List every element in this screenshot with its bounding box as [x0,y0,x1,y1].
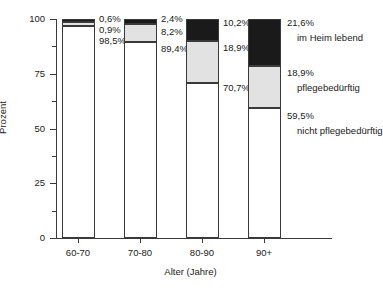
bar-70-80[interactable] [124,19,157,238]
bar-60-70-label-nicht-pflege: 98,5% [99,36,126,46]
x-axis-line [56,238,332,239]
bar-80-90-label-nicht-pflege: 70,7% [223,83,250,93]
y-tick-label-50: 50 [34,124,45,134]
bar-60-70[interactable] [62,19,95,238]
y-axis-title: Prozent [0,101,8,134]
y-tick-minor-12 [52,211,56,212]
bar-60-70-segment-nicht-pflege [62,26,95,238]
bar-90plus-segment-nicht-pflege [248,108,281,238]
y-tick-75 [50,74,56,75]
bar-80-90-label-heim: 10,2% [223,18,250,28]
bar-60-70-label-pflege: 0,9% [99,25,121,35]
y-tick-minor-37 [52,156,56,157]
x-axis-title: Alter (Jahre) [0,266,381,277]
y-tick-label-75: 75 [34,69,45,79]
bar-70-80-segment-pflege [124,24,157,42]
bar-80-90[interactable] [186,19,219,238]
bar-80-90-segment-pflege [186,41,219,83]
y-tick-100 [50,19,56,20]
bar-80-90-label-pflege: 18,9% [223,43,250,53]
x-tick-3 [264,238,265,243]
y-tick-50 [50,129,56,130]
legend-label-nicht-pflege: nicht pflegebedürftig [297,126,383,136]
y-axis-line [56,19,57,238]
x-tick-label-90plus: 90+ [256,248,272,258]
bar-70-80-label-heim: 2,4% [161,14,183,24]
x-tick-label-70-80: 70-80 [128,248,152,258]
bar-70-80-label-pflege: 8,2% [161,27,183,37]
bar-80-90-segment-heim [186,19,219,41]
y-tick-25 [50,183,56,184]
bar-90plus-segment-heim [248,19,281,66]
bar-90plus[interactable] [248,19,281,238]
y-tick-label-25: 25 [34,178,45,188]
x-tick-2 [202,238,203,243]
bar-80-90-segment-nicht-pflege [186,83,219,238]
y-tick-label-0: 0 [40,233,45,243]
y-tick-minor-62 [52,101,56,102]
y-tick-label-100: 100 [29,14,45,24]
bar-90plus-label-pflege: 18,9% [287,68,314,78]
y-tick-minor-87 [52,46,56,47]
x-tick-label-80-90: 80-90 [190,248,214,258]
x-tick-1 [140,238,141,243]
legend-label-pflege: pflegebedürftig [297,83,360,93]
legend-label-heim: im Heim lebend [297,33,363,43]
bar-90plus-segment-pflege [248,66,281,108]
x-tick-label-60-70: 60-70 [66,248,90,258]
bar-90plus-label-heim: 21,6% [287,18,314,28]
bar-90plus-label-nicht-pflege: 59,5% [287,111,314,121]
y-tick-0 [50,238,56,239]
x-tick-0 [78,238,79,243]
bar-60-70-label-heim: 0,6% [99,14,121,24]
bar-70-80-segment-nicht-pflege [124,42,157,238]
bar-70-80-label-nicht-pflege: 89,4% [161,44,188,54]
